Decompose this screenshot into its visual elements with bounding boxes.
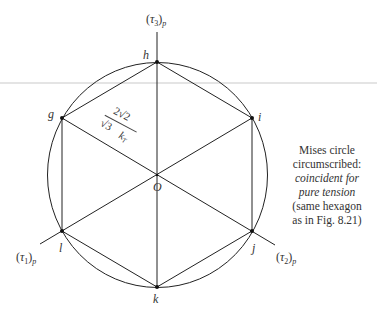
caption-line-4: pure tension xyxy=(284,185,370,199)
caption-line-1: Mises circle xyxy=(284,143,370,157)
tau1-subscript: p xyxy=(32,257,36,266)
vertex-l-label: l xyxy=(59,242,62,254)
vertex-i-label: i xyxy=(258,111,261,123)
caption-line-2: circumscribed: xyxy=(284,157,370,171)
tau1-index: 1 xyxy=(24,257,28,266)
mises-caption: Mises circle circumscribed: coincident f… xyxy=(284,143,370,227)
vertex-g-label: g xyxy=(48,108,54,120)
formula-variable: kT xyxy=(116,129,130,145)
vertex-k-label: k xyxy=(153,293,158,305)
vertex-j-dot xyxy=(250,229,254,233)
vertex-h-dot xyxy=(155,60,159,64)
tau3-axis-label: (τ3)p xyxy=(146,13,166,28)
vertex-h-label: h xyxy=(143,49,149,61)
mises-hexagon-figure: (τ3)p (τ1)p (τ2)p h i j k l g O 2√2 √3 k… xyxy=(0,0,377,317)
tau3-subscript: p xyxy=(162,19,166,28)
tau1-axis-label: (τ1)p xyxy=(16,251,36,266)
vertex-g-dot xyxy=(60,116,64,120)
caption-line-5: (same hexagon xyxy=(284,199,370,213)
vertex-j-label: j xyxy=(252,242,255,254)
origin-label: O xyxy=(153,181,162,193)
caption-line-3: coincident for xyxy=(284,171,370,185)
tau3-index: 3 xyxy=(154,19,158,28)
vertex-l-dot xyxy=(60,229,64,233)
tau2-subscript: p xyxy=(292,257,296,266)
tau2-index: 2 xyxy=(284,257,288,266)
caption-line-6: as in Fig. 8.21) xyxy=(284,213,370,227)
tau2-axis-label: (τ2)p xyxy=(276,251,296,266)
vertex-k-dot xyxy=(155,285,159,289)
vertex-i-dot xyxy=(250,116,254,120)
origin-dot xyxy=(156,174,158,176)
